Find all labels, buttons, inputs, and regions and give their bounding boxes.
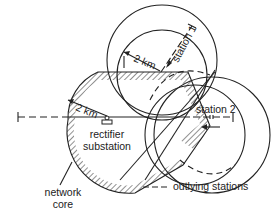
network-core-label-1: network [45, 186, 83, 198]
legend-outlying-label: outlying stations [173, 180, 248, 192]
network-core-label-2: core [53, 198, 74, 210]
network-core-region [67, 72, 210, 193]
station2-label: station 2 [196, 103, 236, 115]
rectifier-label-2: substation [83, 140, 131, 152]
core-pointer [60, 162, 72, 185]
radius-label-station1: 2 km [132, 52, 158, 72]
rectifier-label-1: rectifier [90, 128, 125, 140]
coverage-diagram: 2 km station 1 2 km station 2 rectifier … [0, 0, 275, 219]
